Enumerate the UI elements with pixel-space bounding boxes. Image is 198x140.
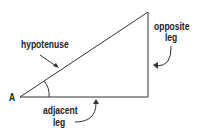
- adjacent-label-line2: leg: [53, 118, 65, 128]
- adjacent-arrowhead: [93, 99, 99, 104]
- adjacent-arrow: [75, 103, 96, 122]
- angle-arc: [44, 81, 49, 97]
- opposite-label-line2: leg: [165, 33, 177, 43]
- opposite-label-line1: opposite: [154, 22, 189, 32]
- hypotenuse-arrowhead: [53, 63, 59, 68]
- hypotenuse-arrow: [40, 55, 56, 66]
- hypotenuse-label: hypotenuse: [21, 40, 69, 50]
- opposite-arrowhead: [153, 62, 158, 69]
- right-triangle: [20, 12, 148, 97]
- vertex-label-a: A: [9, 93, 15, 103]
- adjacent-label-line1: adjacent: [43, 106, 77, 116]
- opposite-arrow: [157, 46, 171, 66]
